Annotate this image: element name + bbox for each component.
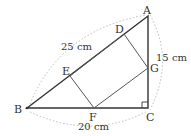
measure-ab: 25 cm [61, 41, 93, 52]
label-a: A [142, 4, 152, 17]
label-b: B [14, 103, 22, 116]
label-c: C [146, 111, 154, 124]
right-angle-marker [142, 102, 148, 108]
measure-ac: 15 cm [156, 52, 188, 63]
point-b-dot [26, 107, 29, 110]
label-g: G [150, 62, 159, 75]
geometry-diagram: A B C D E F G 25 cm 15 cm 20 cm [0, 0, 191, 136]
arc-ab [30, 15, 146, 104]
label-d: D [115, 23, 124, 36]
label-e: E [62, 65, 70, 78]
measure-bc: 20 cm [78, 121, 110, 132]
